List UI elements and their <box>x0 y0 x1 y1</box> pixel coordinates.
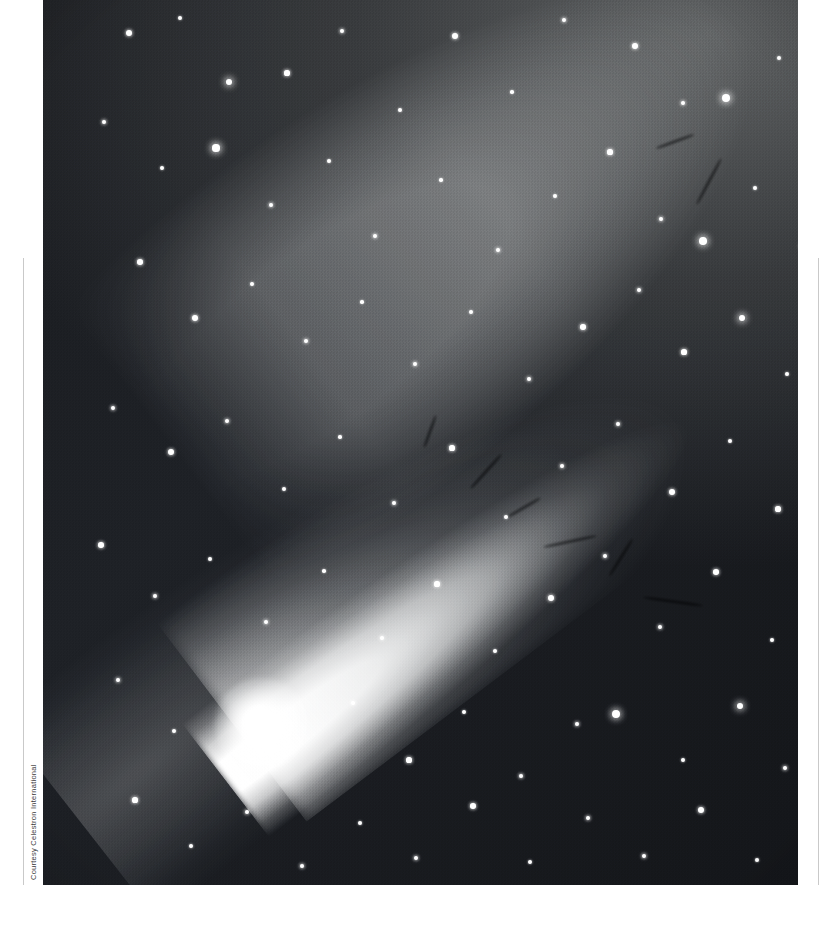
star <box>340 29 344 33</box>
star <box>178 16 182 20</box>
star <box>755 858 759 862</box>
star <box>575 722 579 726</box>
star <box>713 569 719 575</box>
star <box>98 542 104 548</box>
star <box>284 70 289 75</box>
star <box>519 774 524 779</box>
comet-photograph <box>43 0 798 885</box>
star <box>226 79 233 86</box>
star <box>358 821 362 825</box>
left-margin-rule <box>23 258 24 885</box>
comet-nucleus <box>243 706 277 740</box>
star <box>126 30 132 36</box>
star <box>153 594 157 598</box>
page-canvas: Courtesy Celestron International <box>0 0 840 934</box>
star <box>783 766 787 770</box>
star <box>642 854 646 858</box>
star <box>102 120 107 125</box>
star <box>414 856 418 860</box>
star <box>586 816 591 821</box>
star <box>770 638 774 642</box>
star <box>528 860 532 864</box>
star <box>470 803 476 809</box>
star <box>116 678 121 683</box>
photo-credit: Courtesy Celestron International <box>30 764 38 880</box>
star <box>698 807 704 813</box>
star <box>160 166 164 170</box>
star <box>208 557 212 561</box>
star <box>300 864 305 869</box>
star <box>658 625 662 629</box>
star <box>681 758 685 762</box>
star <box>111 406 115 410</box>
star <box>132 797 137 802</box>
star <box>612 710 620 718</box>
star <box>775 506 780 511</box>
right-margin-rule <box>818 258 819 885</box>
star <box>189 844 193 848</box>
star <box>462 710 466 714</box>
tail-dark-streak <box>643 596 703 607</box>
star <box>737 703 744 710</box>
star <box>406 757 411 762</box>
star <box>172 729 176 733</box>
